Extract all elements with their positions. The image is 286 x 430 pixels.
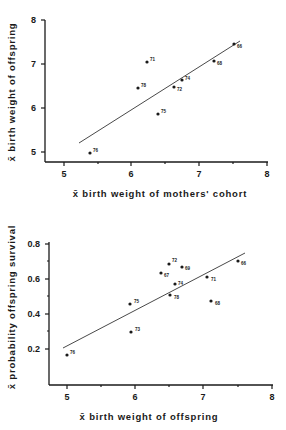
point-label: 68 (217, 61, 223, 66)
y-axis-title-top: x̄ birth weight of offspring (6, 23, 17, 162)
x-tick-label: 6 (128, 169, 133, 179)
data-point (145, 60, 148, 63)
x-axis-title-top: x̄ birth weight of mothers' cohort (73, 188, 247, 199)
y-tick-label: 0.6 (27, 274, 40, 284)
point-label: 78 (141, 83, 147, 88)
x-tick-label: 6 (132, 392, 137, 402)
point-label: 76 (93, 148, 99, 153)
x-axis-title-bottom: x̄ birth weight of offspring (80, 411, 219, 422)
y-tick-label: 8 (31, 15, 36, 25)
point-label: 72 (172, 258, 178, 263)
x-tick-label: 7 (200, 392, 205, 402)
point-label: 73 (135, 327, 141, 332)
data-point (159, 271, 162, 274)
data-point (232, 42, 235, 45)
point-label: 76 (70, 350, 76, 355)
data-point (129, 330, 132, 333)
data-point (65, 353, 68, 356)
data-point (128, 302, 131, 305)
point-label: 68 (215, 301, 221, 306)
x-tick-label: 7 (196, 169, 201, 179)
data-point (88, 151, 91, 154)
point-label: 66 (237, 44, 243, 49)
y-tick-label: 7 (31, 59, 36, 69)
point-label: 72 (177, 87, 183, 92)
data-point (180, 265, 183, 268)
data-point (173, 282, 176, 285)
point-label: 75 (161, 109, 167, 114)
y-tick-label: 0.8 (27, 239, 40, 249)
x-tick-label: 5 (61, 169, 66, 179)
point-label: 74 (178, 281, 184, 286)
data-point (168, 293, 171, 296)
data-point (180, 78, 183, 81)
point-label: 69 (185, 266, 191, 271)
point-label: 71 (150, 57, 156, 62)
data-point (167, 262, 170, 265)
x-tick-label: 5 (64, 392, 69, 402)
point-label: 71 (211, 277, 217, 282)
y-axis-title-bottom: x̄ probability offspring survival (6, 225, 17, 389)
point-label: 74 (185, 76, 191, 81)
point-label: 66 (241, 261, 247, 266)
y-tick-label: 6 (31, 103, 36, 113)
data-points-bottom (65, 259, 239, 356)
data-point (172, 85, 175, 88)
data-point (156, 112, 159, 115)
data-point (236, 259, 239, 262)
y-tick-label: 0.2 (27, 344, 40, 354)
data-point (205, 275, 208, 278)
y-tick-label: 5 (31, 147, 36, 157)
x-tick-label: 8 (269, 392, 274, 402)
point-label: 67 (164, 273, 170, 278)
regression-line-top (79, 41, 240, 143)
point-label: 78 (174, 295, 180, 300)
data-point (212, 59, 215, 62)
y-tick-label: 0.4 (27, 309, 40, 319)
data-point (136, 86, 139, 89)
x-tick-label: 8 (264, 169, 269, 179)
data-point (209, 299, 212, 302)
chart-top: 8 7 6 5 5 6 7 8 x̄ birth weight of mothe… (6, 15, 270, 199)
figure: 8 7 6 5 5 6 7 8 x̄ birth weight of mothe… (0, 0, 286, 430)
point-label: 75 (134, 299, 140, 304)
data-points-top (88, 42, 235, 154)
chart-bottom: 0.8 0.6 0.4 0.2 5 6 7 8 x̄ birth weight … (6, 225, 275, 422)
